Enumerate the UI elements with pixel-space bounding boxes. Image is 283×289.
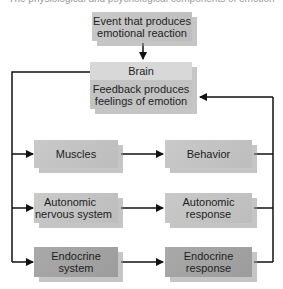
endocrine-response-line2: response (186, 262, 231, 274)
event-line2: emotional reaction (97, 27, 187, 39)
behavior-label: Behavior (187, 148, 230, 160)
brain-title: Brain (90, 62, 192, 80)
autonomic-response-box: Autonomic response (165, 193, 252, 223)
event-line1: Event that produces (93, 15, 191, 27)
cut-off-caption: The physiological and psychological comp… (0, 0, 283, 4)
behavior-box: Behavior (165, 140, 252, 168)
endocrine-system-box: Endocrine system (34, 247, 118, 277)
muscles-box: Muscles (34, 140, 118, 168)
autonomic-response-line2: response (186, 208, 231, 220)
brain-feedback-text: Feedback produces feelings of emotion (90, 80, 192, 109)
event-box: Event that produces emotional reaction (92, 12, 192, 41)
endocrine-response-line1: Endocrine (184, 250, 234, 262)
autonomic-nervous-system-box: Autonomic nervous system (34, 193, 118, 223)
ans-line2: nervous system (35, 208, 112, 220)
brain-line1: Feedback produces (90, 83, 192, 95)
brain-box: Brain Feedback produces feelings of emot… (90, 62, 192, 109)
endocrine-system-line2: system (59, 262, 94, 274)
ans-line1: Autonomic (44, 196, 96, 208)
autonomic-response-line1: Autonomic (183, 196, 235, 208)
endocrine-system-line1: Endocrine (51, 250, 101, 262)
brain-line2: feelings of emotion (90, 95, 192, 107)
endocrine-response-box: Endocrine response (165, 247, 252, 277)
muscles-label: Muscles (56, 148, 96, 160)
